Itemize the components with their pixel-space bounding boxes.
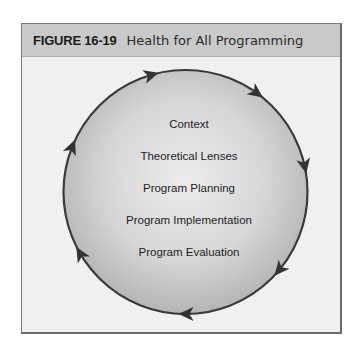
- stage-context: Context: [8, 118, 362, 130]
- stage-theoretical-lenses: Theoretical Lenses: [8, 150, 362, 162]
- cycle-diagram: [0, 0, 362, 351]
- stage-program-evaluation: Program Evaluation: [8, 246, 362, 258]
- stage-program-implementation: Program Implementation: [8, 214, 362, 226]
- stage-program-planning: Program Planning: [8, 182, 362, 194]
